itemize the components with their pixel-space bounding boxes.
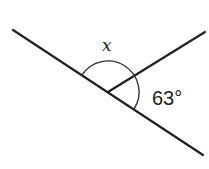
angle-diagram: x 63° (0, 0, 209, 169)
ray (108, 32, 205, 92)
angle-arc (82, 61, 139, 109)
diagram-svg: x 63° (0, 0, 209, 169)
angle-label-63: 63° (152, 87, 182, 109)
angle-label-x: x (102, 35, 112, 55)
